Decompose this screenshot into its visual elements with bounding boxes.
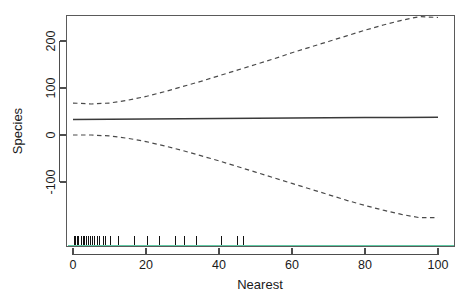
x-axis-tick-label: 20	[139, 258, 153, 272]
x-axis: 020406080100	[70, 248, 449, 272]
y-axis-title: Species	[10, 107, 25, 154]
upper-confidence-band-line	[73, 17, 438, 104]
chart-container: -1000100200 020406080100 Nearest Species	[0, 0, 471, 306]
rug-group	[68, 236, 454, 245]
x-axis-tick-label: 40	[212, 258, 226, 272]
y-axis-tick-label: 0	[44, 131, 58, 138]
y-axis-tick-label: 100	[44, 78, 58, 99]
x-axis-tick-label: 60	[285, 258, 299, 272]
y-axis-tick-label: -100	[44, 169, 58, 194]
x-axis-title: Nearest	[237, 277, 283, 292]
x-axis-tick-label: 0	[70, 258, 77, 272]
y-axis: -1000100200	[44, 31, 66, 195]
x-axis-tick-label: 80	[358, 258, 372, 272]
data-series-group	[73, 17, 438, 218]
y-axis-tick-label: 200	[44, 31, 58, 52]
lower-confidence-band-line	[73, 135, 438, 218]
x-axis-tick-label: 100	[428, 258, 449, 272]
species-vs-nearest-regression-plot: -1000100200 020406080100 Nearest Species	[0, 0, 471, 306]
fit-line	[73, 117, 438, 119]
plot-frame-box	[67, 16, 455, 247]
